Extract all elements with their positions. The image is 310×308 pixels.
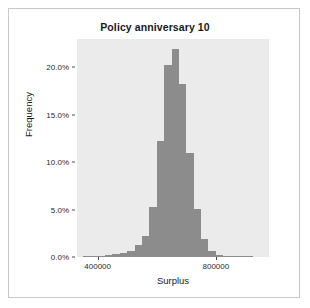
histogram-bar [201, 239, 208, 257]
histogram-bar [157, 141, 164, 257]
y-tick-label: 0.0% [51, 253, 69, 262]
histogram-bar [149, 207, 156, 257]
y-tick-mark [72, 67, 75, 68]
histogram-bar [142, 236, 149, 257]
y-tick-label: 20.0% [46, 63, 69, 72]
y-tick-label: 10.0% [46, 158, 69, 167]
y-tick-mark [72, 162, 75, 163]
y-tick-label: 5.0% [51, 205, 69, 214]
x-tick-label: 400000 [84, 262, 111, 271]
chart-card: Policy anniversary 10 Frequency 0.0%5.0%… [8, 8, 300, 298]
y-tick-label: 15.0% [46, 110, 69, 119]
x-tick-mark [98, 257, 99, 260]
histogram-bar [172, 49, 179, 257]
histogram-bar [186, 153, 193, 257]
x-axis: Surplus 400000800000 [77, 257, 269, 299]
x-tick-mark [216, 257, 217, 260]
y-tick-mark [72, 209, 75, 210]
histogram-bar [164, 65, 171, 257]
x-axis-label: Surplus [77, 275, 269, 286]
histogram-bar [135, 245, 142, 257]
histogram-bar [194, 209, 201, 257]
y-tick-mark [72, 114, 75, 115]
y-tick-mark [72, 257, 75, 258]
plot-panel [77, 39, 269, 257]
y-axis-ticks: 0.0%5.0%10.0%15.0%20.0% [29, 9, 77, 299]
histogram-bar [179, 84, 186, 257]
x-tick-label: 800000 [202, 262, 229, 271]
